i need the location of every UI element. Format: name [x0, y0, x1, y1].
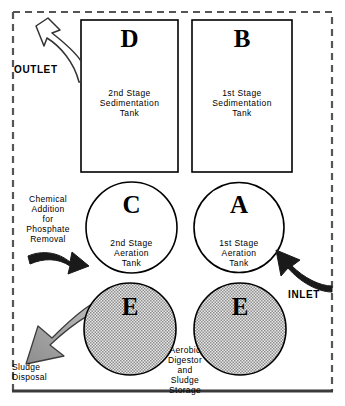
- tank-a-description: 1st Stage Aeration Tank: [194, 238, 284, 268]
- diagram-page: D 2nd Stage Sedimentation Tank B 1st Sta…: [0, 0, 345, 406]
- tank-c-letter: C: [86, 190, 177, 220]
- tank-d-description: 2nd Stage Sedimentation Tank: [81, 88, 178, 118]
- tank-d-letter: D: [81, 24, 178, 54]
- sludge-disposal-label: Sludge Disposal: [12, 362, 78, 382]
- tank-c-description: 2nd Stage Aeration Tank: [86, 238, 177, 268]
- inlet-arrow: [276, 250, 332, 292]
- outlet-label: OUTLET: [14, 64, 76, 76]
- chemical-addition-arrow: [28, 252, 89, 274]
- tank-a-letter: A: [194, 190, 284, 220]
- tank-b-letter: B: [192, 24, 292, 54]
- digestor-e-left-letter: E: [84, 292, 176, 322]
- tank-b-description: 1st Stage Sedimentation Tank: [192, 88, 292, 118]
- chemical-addition-label: Chemical Addition for Phosphate Removal: [14, 194, 82, 244]
- inlet-label: INLET: [288, 289, 340, 301]
- digestor-e-right-letter: E: [194, 292, 286, 322]
- aerobic-digestor-label: Aerobic Digestor and Sludge Storage: [150, 345, 220, 395]
